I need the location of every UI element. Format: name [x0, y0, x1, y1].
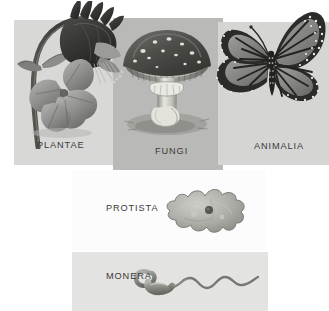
panel-label-plantae: PLANTAE [37, 140, 85, 150]
panel-monera-background [72, 252, 268, 311]
five-kingdoms-figure: PLANTAE [0, 0, 329, 311]
panel-protista-background [72, 170, 265, 250]
panel-fungi: FUNGI [113, 18, 223, 170]
panel-animalia: ANIMALIA [218, 22, 329, 165]
panel-label-animalia: ANIMALIA [254, 141, 304, 151]
panel-monera: MONERA [72, 252, 268, 311]
panel-label-monera: MONERA [106, 271, 152, 281]
panel-label-fungi: FUNGI [155, 146, 188, 156]
panel-plantae: PLANTAE [14, 20, 118, 165]
panel-protista: PROTISTA [72, 170, 265, 250]
panel-label-protista: PROTISTA [106, 203, 158, 213]
